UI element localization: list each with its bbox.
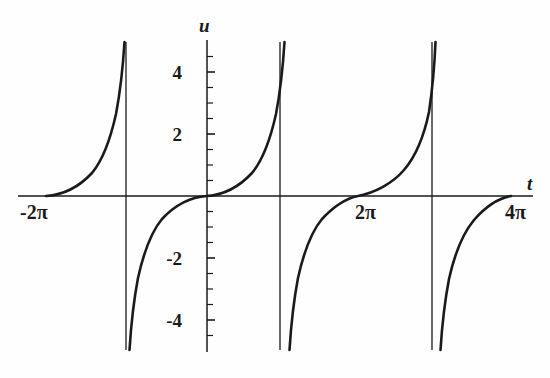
plot-background [0,0,550,378]
y-tick-label-2: 2 [173,124,183,145]
x-axis-label: t [527,173,533,194]
y-tick-label-neg-2: -2 [166,248,182,269]
tangent-function-plot: u t 4 2 -2 -4 -2π 2π 4π [0,0,550,378]
x-tick-label-4pi: 4π [505,201,526,223]
chart-figure: u t 4 2 -2 -4 -2π 2π 4π [0,0,550,378]
y-tick-label-4: 4 [173,62,183,83]
x-tick-label-neg-2pi: -2π [20,201,48,223]
y-axis-label: u [199,15,210,36]
y-tick-label-neg-4: -4 [166,310,182,331]
x-tick-label-2pi: 2π [355,201,376,223]
